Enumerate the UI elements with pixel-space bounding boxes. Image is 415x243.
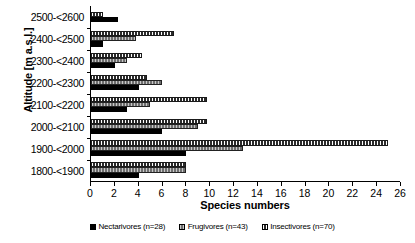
x-axis-tick-label: 24 <box>370 187 382 199</box>
x-axis-tick-label: 14 <box>251 187 263 199</box>
y-axis-tick <box>87 72 91 73</box>
y-axis-tick <box>87 94 91 95</box>
y-axis-tick <box>87 116 91 117</box>
x-axis-tick <box>162 182 163 186</box>
x-axis-tick <box>305 182 306 186</box>
legend-label: Nectarivores (n=28) <box>99 222 166 231</box>
x-axis-tick-label: 6 <box>159 187 165 199</box>
bar-nectarivores <box>91 41 103 46</box>
bar-group <box>91 50 400 72</box>
bar-group <box>91 28 400 50</box>
bar-nectarivores <box>91 129 162 134</box>
x-axis-tick-label: 26 <box>394 187 406 199</box>
legend-label: Insectivores (n=70) <box>270 222 334 231</box>
x-axis-tick <box>352 182 353 186</box>
y-axis-tick-label: 1900-<2000 <box>14 138 88 160</box>
bar-nectarivores <box>91 17 118 22</box>
legend-swatch-icon <box>179 224 185 230</box>
x-axis-title: Species numbers <box>90 199 400 211</box>
chart-legend: Nectarivores (n=28)Frugivores (n=43)Inse… <box>90 222 415 231</box>
x-axis-tick <box>376 182 377 186</box>
legend-label: Frugivores (n=43) <box>188 222 248 231</box>
y-axis-tick-label: 2300-<2400 <box>14 50 88 72</box>
x-axis-tick-label: 4 <box>135 187 141 199</box>
x-axis-tick <box>90 182 91 186</box>
bar-group <box>91 137 400 159</box>
bar-nectarivores <box>91 85 139 90</box>
legend-swatch-icon <box>90 224 96 230</box>
x-axis-tick-label: 0 <box>87 187 93 199</box>
legend-swatch-icon <box>262 224 268 230</box>
x-axis-tick <box>328 182 329 186</box>
bar-nectarivores <box>91 107 127 112</box>
y-axis-tick <box>87 138 91 139</box>
bar-group <box>91 159 400 181</box>
legend-item[interactable]: Insectivores (n=70) <box>262 222 335 231</box>
x-axis-tick-label: 2 <box>111 187 117 199</box>
x-axis-tick <box>138 182 139 186</box>
legend-item[interactable]: Nectarivores (n=28) <box>90 222 165 231</box>
y-axis-tick <box>87 50 91 51</box>
y-axis-tick-label: 2200-<2300 <box>14 72 88 94</box>
x-axis-tick <box>209 182 210 186</box>
bar-group <box>91 6 400 28</box>
y-axis-tick-label: 1800-<1900 <box>14 160 88 182</box>
x-axis-tick-label: 18 <box>299 187 311 199</box>
x-axis-tick-label: 10 <box>203 187 215 199</box>
x-axis-tick-label: 20 <box>323 187 335 199</box>
bar-groups <box>91 6 400 181</box>
x-axis-tick <box>233 182 234 186</box>
bar-nectarivores <box>91 63 115 68</box>
species-altitude-bar-chart: Altitude [m a.s.l.] 2500-<26002400-<2500… <box>0 0 415 243</box>
legend-item[interactable]: Frugivores (n=43) <box>179 222 247 231</box>
y-axis-tick-label: 2400-<2500 <box>14 28 88 50</box>
x-axis-tick <box>185 182 186 186</box>
x-axis-tick-label: 8 <box>182 187 188 199</box>
x-axis-tick-label: 16 <box>275 187 287 199</box>
x-axis-tick <box>114 182 115 186</box>
bar-group <box>91 94 400 116</box>
x-axis-tick-label: 22 <box>346 187 358 199</box>
x-axis-tick-label: 12 <box>227 187 239 199</box>
y-axis-tick-labels: 2500-<26002400-<25002300-<24002200-<2300… <box>14 6 88 182</box>
bar-group <box>91 72 400 94</box>
x-axis-tick <box>257 182 258 186</box>
y-axis-tick-label: 2500-<2600 <box>14 6 88 28</box>
bar-nectarivores <box>91 151 186 156</box>
y-axis-tick <box>87 28 91 29</box>
x-axis-tick <box>400 182 401 186</box>
y-axis-tick <box>87 160 91 161</box>
bar-group <box>91 115 400 137</box>
y-axis-tick-label: 2100-<2200 <box>14 94 88 116</box>
x-axis-tick <box>281 182 282 186</box>
y-axis-tick-label: 2000-<2100 <box>14 116 88 138</box>
plot-area <box>90 6 400 182</box>
bar-nectarivores <box>91 173 139 178</box>
